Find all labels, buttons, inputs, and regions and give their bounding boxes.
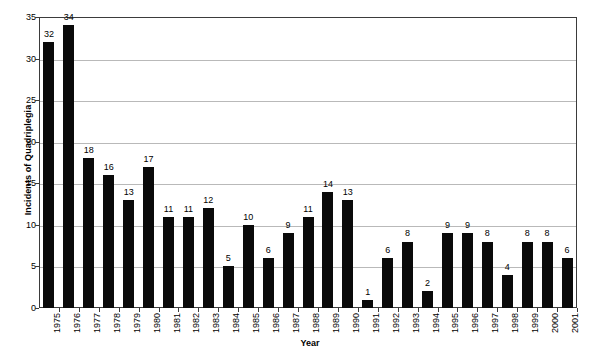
x-tick-mark bbox=[79, 308, 80, 312]
gridline bbox=[40, 60, 576, 61]
x-tick-mark bbox=[398, 308, 399, 312]
x-tick-mark bbox=[338, 308, 339, 312]
x-tick-label: 1975 bbox=[53, 313, 62, 333]
x-tick-label: 1987 bbox=[292, 313, 301, 333]
x-tick-mark bbox=[477, 308, 478, 312]
x-tick-label: 1986 bbox=[272, 313, 281, 333]
y-tick-label: 5 bbox=[10, 262, 36, 271]
x-tick-label: 1984 bbox=[232, 313, 241, 333]
x-tick-mark bbox=[298, 308, 299, 312]
y-tick-mark bbox=[35, 100, 39, 101]
gridline bbox=[40, 184, 576, 185]
y-tick-label: 10 bbox=[10, 221, 36, 230]
x-tick-mark bbox=[557, 308, 558, 312]
x-tick-label: 1993 bbox=[412, 313, 421, 333]
y-tick-mark bbox=[35, 59, 39, 60]
x-tick-mark bbox=[178, 308, 179, 312]
x-tick-label: 2001 bbox=[571, 313, 580, 333]
x-tick-label: 1976 bbox=[73, 313, 82, 333]
x-tick-mark bbox=[318, 308, 319, 312]
x-tick-label: 1998 bbox=[511, 313, 520, 333]
x-tick-label: 1978 bbox=[113, 313, 122, 333]
y-tick-mark bbox=[35, 308, 39, 309]
x-tick-mark bbox=[577, 308, 578, 312]
x-tick-mark bbox=[59, 308, 60, 312]
y-tick-mark bbox=[35, 183, 39, 184]
y-tick-label: 35 bbox=[10, 13, 36, 22]
x-tick-label: 1977 bbox=[93, 313, 102, 333]
y-tick-label: 25 bbox=[10, 96, 36, 105]
x-tick-mark bbox=[438, 308, 439, 312]
x-tick-mark bbox=[159, 308, 160, 312]
x-tick-mark bbox=[418, 308, 419, 312]
bar-chart: Incidents of Quadriplegia 05101520253035… bbox=[0, 0, 592, 357]
x-axis-title: Year bbox=[0, 338, 592, 348]
x-tick-label: 1991 bbox=[372, 313, 381, 333]
x-tick-mark bbox=[537, 308, 538, 312]
x-tick-mark bbox=[497, 308, 498, 312]
x-tick-label: 1983 bbox=[212, 313, 221, 333]
gridline bbox=[40, 267, 576, 268]
x-tick-mark bbox=[119, 308, 120, 312]
x-tick-label: 1981 bbox=[173, 313, 182, 333]
x-tick-mark bbox=[218, 308, 219, 312]
x-tick-label: 1982 bbox=[192, 313, 201, 333]
x-tick-label: 1979 bbox=[133, 313, 142, 333]
x-tick-label: 1996 bbox=[471, 313, 480, 333]
x-tick-mark bbox=[457, 308, 458, 312]
x-tick-label: 1980 bbox=[153, 313, 162, 333]
x-tick-label: 1992 bbox=[392, 313, 401, 333]
gridline bbox=[40, 226, 576, 227]
x-tick-mark bbox=[378, 308, 379, 312]
x-tick-mark bbox=[139, 308, 140, 312]
y-tick-mark bbox=[35, 266, 39, 267]
x-tick-label: 1990 bbox=[352, 313, 361, 333]
gridline bbox=[40, 143, 576, 144]
x-tick-mark bbox=[198, 308, 199, 312]
y-tick-label: 15 bbox=[10, 179, 36, 188]
y-tick-label: 0 bbox=[10, 304, 36, 313]
x-tick-label: 1997 bbox=[491, 313, 500, 333]
x-tick-mark bbox=[258, 308, 259, 312]
x-tick-mark bbox=[278, 308, 279, 312]
x-tick-label: 1995 bbox=[451, 313, 460, 333]
y-tick-mark bbox=[35, 142, 39, 143]
x-tick-label: 2000 bbox=[551, 313, 560, 333]
x-tick-label: 1989 bbox=[332, 313, 341, 333]
x-tick-mark bbox=[99, 308, 100, 312]
x-tick-label: 1988 bbox=[312, 313, 321, 333]
y-tick-mark bbox=[35, 225, 39, 226]
plot-area bbox=[39, 17, 577, 308]
x-tick-mark bbox=[238, 308, 239, 312]
gridline bbox=[40, 101, 576, 102]
x-tick-label: 1985 bbox=[252, 313, 261, 333]
x-axis-title-text: Year bbox=[300, 338, 319, 348]
y-tick-label: 30 bbox=[10, 55, 36, 64]
x-tick-mark bbox=[358, 308, 359, 312]
x-tick-label: 1994 bbox=[432, 313, 441, 333]
y-tick-mark bbox=[35, 17, 39, 18]
x-tick-label: 1999 bbox=[531, 313, 540, 333]
x-tick-mark bbox=[517, 308, 518, 312]
y-tick-label: 20 bbox=[10, 138, 36, 147]
